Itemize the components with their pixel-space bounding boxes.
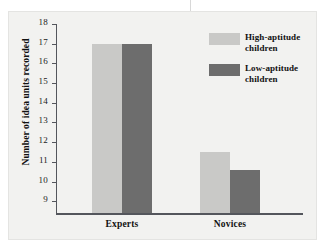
y-axis-tick-label: 9 [43, 194, 48, 204]
bar-experts-low-aptitude [122, 44, 152, 213]
legend-item-low-aptitude: Low-aptitudechildren [209, 63, 321, 85]
y-axis-tick-label: 18 [39, 17, 48, 27]
y-axis-tick-label: 17 [39, 37, 48, 47]
y-axis-tick-label: 12 [39, 135, 48, 145]
y-axis-tick-label: 11 [39, 155, 48, 165]
bar-chart-figure: Number of idea units recorded 1817161514… [0, 0, 325, 251]
x-axis-label-novices: Novices [180, 219, 280, 229]
y-axis-tick-label: 13 [39, 115, 48, 125]
y-axis-tick-label: 14 [39, 96, 48, 106]
bar-novices-high-aptitude [200, 152, 230, 213]
legend-swatch-icon [209, 64, 240, 76]
chart-legend: High-aptitudechildrenLow-aptitudechildre… [209, 32, 321, 94]
bar-novices-low-aptitude [230, 170, 260, 213]
x-axis-line [56, 213, 303, 215]
y-axis-tick-label: 16 [39, 56, 48, 66]
legend-item-high-aptitude: High-aptitudechildren [209, 32, 321, 54]
legend-label: High-aptitudechildren [245, 32, 321, 54]
x-axis-label-experts: Experts [72, 219, 172, 229]
y-axis-title: Number of idea units recorded [21, 22, 31, 182]
y-axis-tick-label: 10 [39, 175, 48, 185]
bar-experts-high-aptitude [92, 44, 122, 213]
legend-swatch-icon [209, 33, 240, 45]
legend-label: Low-aptitudechildren [245, 63, 321, 85]
y-axis-tick-label: 15 [39, 76, 48, 86]
